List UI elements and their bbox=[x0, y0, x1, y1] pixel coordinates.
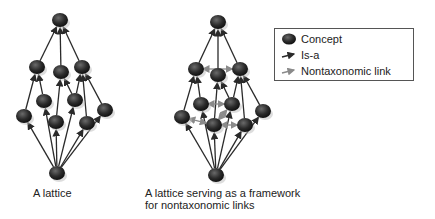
concept-node bbox=[48, 115, 64, 129]
concept-node bbox=[16, 109, 32, 123]
is-a-edge bbox=[57, 80, 61, 115]
is-a-edge bbox=[234, 77, 239, 97]
right-lattice bbox=[174, 15, 273, 184]
legend: Concept Is-a Nontaxonomic link bbox=[274, 28, 414, 81]
is-a-arrow-icon bbox=[281, 49, 297, 61]
is-a-edge bbox=[63, 27, 79, 60]
right-lattice-caption: A lattice serving as a framework for non… bbox=[145, 187, 300, 211]
left-lattice bbox=[16, 13, 115, 182]
concept-node bbox=[208, 168, 224, 182]
is-a-edge bbox=[221, 82, 228, 97]
is-a-edge bbox=[61, 130, 83, 167]
right-caption-line2: for nontaxonomic links bbox=[145, 199, 300, 211]
is-a-edge bbox=[26, 75, 35, 110]
concept-node bbox=[224, 97, 240, 111]
is-a-edge bbox=[56, 130, 57, 166]
is-a-edge bbox=[244, 76, 260, 105]
legend-item-concept: Concept bbox=[281, 32, 342, 46]
concept-node bbox=[49, 166, 65, 180]
concept-node bbox=[210, 68, 226, 82]
is-a-edge bbox=[60, 28, 61, 65]
is-a-edge bbox=[65, 79, 72, 94]
concept-node bbox=[210, 15, 226, 29]
concept-node bbox=[36, 94, 52, 108]
is-a-edge bbox=[241, 77, 245, 118]
nontaxonomic-arrow-icon bbox=[281, 65, 297, 77]
is-a-edge bbox=[199, 29, 215, 62]
legend-item-nontaxonomic: Nontaxonomic link bbox=[281, 64, 391, 78]
is-a-edge bbox=[215, 83, 218, 118]
is-a-edge bbox=[220, 132, 241, 169]
is-a-edge bbox=[186, 124, 212, 169]
concept-node bbox=[232, 62, 248, 76]
concept-node bbox=[52, 13, 68, 27]
is-a-edge bbox=[76, 75, 80, 93]
concept-node bbox=[53, 65, 69, 79]
concept-node bbox=[237, 118, 253, 132]
concept-node bbox=[79, 116, 95, 130]
concept-node bbox=[193, 97, 209, 111]
concept-node bbox=[255, 104, 271, 118]
left-lattice-caption: A lattice bbox=[33, 187, 72, 199]
is-a-edge bbox=[86, 74, 102, 104]
right-caption-line1: A lattice serving as a framework bbox=[145, 187, 300, 199]
concept-node bbox=[188, 62, 204, 76]
concept-node bbox=[74, 60, 90, 74]
is-a-edge bbox=[39, 75, 43, 94]
legend-item-is-a: Is-a bbox=[281, 48, 319, 62]
concept-node bbox=[67, 93, 83, 107]
legend-label-is-a: Is-a bbox=[301, 49, 319, 61]
legend-label-concept: Concept bbox=[301, 33, 342, 45]
concept-node bbox=[174, 110, 190, 124]
is-a-edge bbox=[197, 77, 200, 97]
concept-node bbox=[97, 103, 113, 117]
is-a-edge bbox=[40, 27, 56, 61]
is-a-edge bbox=[221, 29, 237, 62]
is-a-edge bbox=[184, 77, 194, 111]
legend-label-nontaxonomic: Nontaxonomic link bbox=[301, 65, 391, 77]
nontaxonomic-edge bbox=[219, 110, 227, 120]
is-a-edge bbox=[214, 133, 215, 168]
is-a-edge bbox=[83, 75, 87, 116]
concept-node bbox=[206, 118, 222, 132]
concept-node bbox=[29, 60, 45, 74]
concept-node-icon bbox=[281, 33, 297, 45]
